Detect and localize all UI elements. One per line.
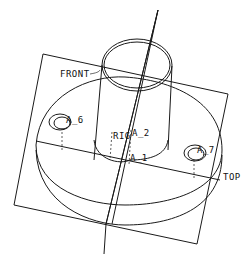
boss-right-silhouette [168,66,172,150]
cad-drawing: FRONT RIG A_2 A_1 A_6 A_7 TOP [0,0,251,254]
label-axis-a2: A_2 [132,128,150,138]
front-label-leader [90,70,100,74]
label-axis-a1: A_1 [130,153,148,163]
label-top-plane: TOP [223,172,241,182]
boss-top-outer [102,39,172,91]
label-right-plane: RIG [113,131,131,141]
label-axis-a7: A_7 [197,145,215,155]
label-front-plane: FRONT [60,69,90,79]
label-axis-a6: A_6 [66,115,84,125]
axis-a1-line[interactable] [110,132,112,160]
boss-top-inner [104,42,170,88]
front-datum-plane[interactable] [14,54,228,244]
